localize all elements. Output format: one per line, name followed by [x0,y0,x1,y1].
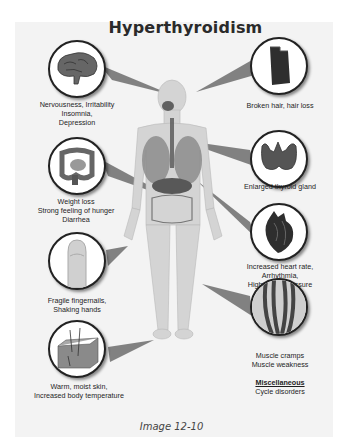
muscle-circle [250,278,308,336]
muscle-icon [252,280,306,334]
hair-icon [252,39,306,93]
finger-icon [50,234,104,288]
label-hair: Broken hair, hair loss [238,101,322,110]
skin-circle [48,320,106,378]
heart-circle [250,203,308,261]
heart-icon [252,205,306,259]
thyroid-icon [252,132,306,186]
label-finger: Fragile fingernails,Shaking hands [38,296,116,314]
brain-circle [48,40,106,98]
diagram-title: Hyperthyroidism [0,18,343,37]
skin-icon [50,322,104,376]
brain-icon [50,42,104,96]
label-thyroid: Enlarged thyroid gland [236,182,324,191]
finger-circle [48,232,106,290]
intestine-circle [48,137,106,195]
miscellaneous-heading: Miscellaneous [240,378,320,387]
hair-circle [250,37,308,95]
label-intestine: Weight lossStrong feeling of hungerDiarr… [30,197,122,224]
thyroid-circle [250,130,308,188]
intestine-icon [50,139,104,193]
label-brain: Nervousness, IrritabilityInsomnia,Depres… [34,100,120,127]
image-caption: Image 12-10 [0,421,343,432]
label-skin: Warm, moist skin,Increased body temperat… [28,382,130,400]
label-miscellaneous: Miscellaneous Cycle disorders [240,378,320,396]
label-muscle: Muscle crampsMuscle weakness [240,351,320,369]
